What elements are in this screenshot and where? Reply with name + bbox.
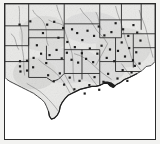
station-marker[interactable] xyxy=(128,47,130,49)
station-marker[interactable] xyxy=(130,71,132,73)
station-marker[interactable] xyxy=(132,24,134,26)
station-marker[interactable] xyxy=(32,66,34,68)
station-marker[interactable] xyxy=(106,57,108,59)
station-marker[interactable] xyxy=(121,41,123,43)
station-marker[interactable] xyxy=(59,72,61,74)
station-marker[interactable] xyxy=(139,39,141,41)
station-marker[interactable] xyxy=(55,49,57,51)
station-marker[interactable] xyxy=(47,74,49,76)
station-marker[interactable] xyxy=(57,37,59,39)
station-marker[interactable] xyxy=(19,60,21,62)
station-marker[interactable] xyxy=(122,69,124,71)
station-marker[interactable] xyxy=(116,77,118,79)
station-marker[interactable] xyxy=(115,22,117,24)
station-marker[interactable] xyxy=(74,46,76,48)
station-marker[interactable] xyxy=(85,58,87,60)
station-marker[interactable] xyxy=(124,55,126,57)
station-marker[interactable] xyxy=(46,24,48,26)
station-marker[interactable] xyxy=(127,35,129,37)
station-marker[interactable] xyxy=(26,60,28,62)
station-marker[interactable] xyxy=(36,44,38,46)
figure-container xyxy=(0,0,160,144)
station-marker[interactable] xyxy=(18,24,20,26)
station-marker[interactable] xyxy=(103,34,105,36)
map-frame xyxy=(4,3,156,140)
station-marker[interactable] xyxy=(53,21,55,23)
station-marker[interactable] xyxy=(135,51,137,53)
station-marker[interactable] xyxy=(33,57,35,59)
station-marker[interactable] xyxy=(63,84,65,86)
station-marker[interactable] xyxy=(61,57,63,59)
station-marker[interactable] xyxy=(29,20,31,22)
station-marker[interactable] xyxy=(81,52,83,54)
station-marker[interactable] xyxy=(112,85,114,87)
station-marker[interactable] xyxy=(26,69,28,71)
station-marker[interactable] xyxy=(70,59,72,61)
station-marker[interactable] xyxy=(19,70,21,72)
station-marker[interactable] xyxy=(81,39,83,41)
station-marker[interactable] xyxy=(69,77,71,79)
station-marker[interactable] xyxy=(109,48,111,50)
station-marker[interactable] xyxy=(102,81,104,83)
station-marker[interactable] xyxy=(100,45,102,47)
station-marker[interactable] xyxy=(132,59,134,61)
station-marker[interactable] xyxy=(110,31,112,33)
station-marker[interactable] xyxy=(19,65,21,67)
station-marker[interactable] xyxy=(98,25,100,27)
station-marker[interactable] xyxy=(98,89,100,91)
station-marker[interactable] xyxy=(117,50,119,52)
station-marker[interactable] xyxy=(107,73,109,75)
station-marker[interactable] xyxy=(42,32,44,34)
station-marker[interactable] xyxy=(66,41,68,43)
station-marker[interactable] xyxy=(40,53,42,55)
station-marker[interactable] xyxy=(136,32,138,34)
map-canvas[interactable] xyxy=(5,4,155,139)
station-marker[interactable] xyxy=(92,61,94,63)
station-marker[interactable] xyxy=(66,52,68,54)
station-marker[interactable] xyxy=(88,84,90,86)
station-marker[interactable] xyxy=(84,92,86,94)
station-marker[interactable] xyxy=(76,32,78,34)
station-marker[interactable] xyxy=(73,88,75,90)
station-marker[interactable] xyxy=(122,28,124,30)
station-marker[interactable] xyxy=(62,27,64,29)
station-marker[interactable] xyxy=(77,62,79,64)
station-marker[interactable] xyxy=(89,47,91,49)
station-marker[interactable] xyxy=(45,62,47,64)
station-marker[interactable] xyxy=(93,76,95,78)
station-marker[interactable] xyxy=(53,80,55,82)
station-marker[interactable] xyxy=(113,60,115,62)
station-marker[interactable] xyxy=(93,35,95,37)
station-marker[interactable] xyxy=(48,54,50,56)
station-marker[interactable] xyxy=(78,80,80,82)
station-marker[interactable] xyxy=(86,30,88,32)
station-marker[interactable] xyxy=(134,65,136,67)
station-marker[interactable] xyxy=(126,80,128,82)
station-marker[interactable] xyxy=(138,62,140,64)
station-marker[interactable] xyxy=(96,53,98,55)
station-marker[interactable] xyxy=(71,28,73,30)
